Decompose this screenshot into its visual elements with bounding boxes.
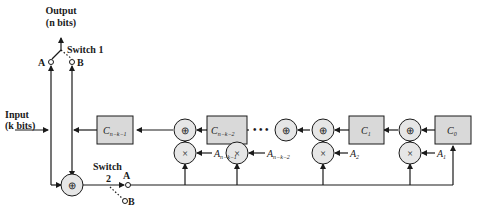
switch1-b-terminal (70, 60, 75, 65)
switch1-a-terminal (49, 60, 54, 65)
switch1-label: Switch 1 (67, 44, 103, 55)
multiplier-symbol: × (407, 148, 413, 159)
input-bits: (k bits) (5, 120, 35, 132)
switch2-number: 2 (106, 173, 111, 184)
coefficient-label: A1 (436, 148, 446, 160)
adder-symbol: ⊕ (68, 180, 76, 191)
lfsr-encoder-diagram: Output (n bits) Switch 1 A B Input (k bi… (0, 0, 481, 215)
multiplier-symbol: × (182, 148, 188, 159)
coefficient-label: An−k−2 (266, 148, 290, 160)
multiplier-symbol: × (234, 148, 240, 159)
switch2-b-terminal (123, 199, 128, 204)
output-bits: (n bits) (46, 17, 76, 29)
adder-symbol: ⊕ (181, 125, 189, 136)
adder-symbol: ⊕ (319, 125, 327, 136)
input-label: Input (5, 109, 30, 120)
switch2-label: Switch (93, 161, 122, 172)
coefficient-label: A2 (349, 148, 359, 160)
ellipsis: • • • (253, 124, 269, 135)
multiplier-symbol: × (320, 148, 326, 159)
switch1-b-label: B (77, 57, 84, 68)
switch2-a-label: A (123, 170, 131, 181)
adder-symbol: ⊕ (282, 125, 290, 136)
switch1-a-label: A (38, 57, 46, 68)
output-label: Output (45, 5, 77, 16)
switch2-b-label: B (128, 196, 135, 207)
switch2-a-terminal (126, 183, 131, 188)
adder-symbol: ⊕ (406, 125, 414, 136)
